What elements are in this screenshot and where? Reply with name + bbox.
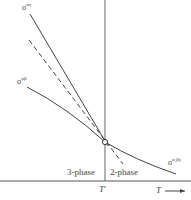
t-arrow-head [180, 189, 185, 193]
critical-point-marker [102, 139, 107, 144]
label-sigma-alpha-beta: σαβ [17, 76, 26, 86]
diagram-canvas [0, 0, 191, 200]
x-axis-label: T [156, 185, 161, 195]
critical-temperature-label: Tc [99, 184, 106, 194]
sigma-alpha-beta-curve [27, 87, 105, 142]
sigma-alpha-gamma-line [30, 14, 108, 146]
region-label-2-phase: 2-phase [110, 167, 138, 177]
extrapolation-dashed-line [29, 40, 123, 164]
label-sigma-alpha-gamma: σαγ [22, 2, 31, 12]
label-sigma-alpha-betagamma: σα,βγ [168, 157, 181, 167]
region-label-3-phase: 3-phase [67, 167, 95, 177]
